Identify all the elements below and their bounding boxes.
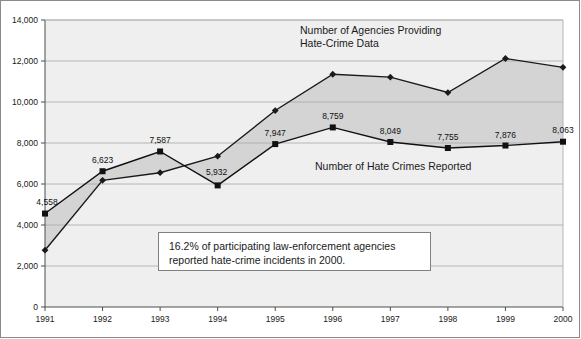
y-tick-label: 10,000 bbox=[12, 97, 38, 107]
data-point-label: 5,932 bbox=[206, 167, 228, 177]
series-marker bbox=[330, 124, 336, 130]
data-point-label: 7,587 bbox=[149, 135, 171, 145]
series-marker bbox=[445, 145, 451, 151]
hate-crimes-series-label: Number of Hate Crimes Reported bbox=[315, 160, 471, 173]
y-tick-label: 0 bbox=[33, 302, 38, 312]
chart-canvas: 02,0004,0006,0008,00010,00012,00014,000 … bbox=[0, 0, 581, 339]
y-tick-label: 4,000 bbox=[17, 220, 39, 230]
x-tick-label: 1998 bbox=[438, 314, 457, 324]
x-axis-ticks: 1991199219931994199519961997199819992000 bbox=[36, 307, 573, 324]
y-tick-label: 14,000 bbox=[12, 15, 38, 25]
x-tick-label: 1996 bbox=[323, 314, 342, 324]
series-marker bbox=[100, 168, 106, 174]
x-tick-label: 1999 bbox=[496, 314, 515, 324]
agencies-series-label: Number of Agencies Providing Hate-Crime … bbox=[300, 24, 441, 50]
y-tick-label: 2,000 bbox=[17, 261, 39, 271]
data-point-label: 8,759 bbox=[322, 111, 344, 121]
x-tick-label: 1997 bbox=[381, 314, 400, 324]
agencies-series-label-line2: Hate-Crime Data bbox=[300, 37, 441, 50]
hate-crime-line-chart: 02,0004,0006,0008,00010,00012,00014,000 … bbox=[0, 0, 581, 339]
data-point-label: 8,063 bbox=[552, 125, 574, 135]
x-tick-label: 1995 bbox=[266, 314, 285, 324]
y-tick-label: 6,000 bbox=[17, 179, 39, 189]
series-marker bbox=[42, 211, 48, 217]
x-tick-label: 1994 bbox=[208, 314, 227, 324]
data-point-label: 7,876 bbox=[495, 130, 517, 140]
x-tick-label: 1992 bbox=[93, 314, 112, 324]
series-marker bbox=[387, 139, 393, 145]
series-marker bbox=[272, 141, 278, 147]
note-box-line2: reported hate-crime incidents in 2000. bbox=[169, 253, 345, 267]
series-marker bbox=[157, 148, 163, 154]
y-tick-label: 8,000 bbox=[17, 138, 39, 148]
agencies-series-label-line1: Number of Agencies Providing bbox=[300, 24, 441, 37]
series-marker bbox=[560, 139, 566, 145]
note-box: 16.2% of participating law-enforcement a… bbox=[158, 232, 431, 271]
series-marker bbox=[215, 182, 221, 188]
data-point-label: 6,623 bbox=[92, 155, 114, 165]
note-box-line1: 16.2% of participating law-enforcement a… bbox=[169, 239, 395, 253]
x-tick-label: 1991 bbox=[36, 314, 55, 324]
series-marker bbox=[502, 143, 508, 149]
data-point-label: 7,947 bbox=[265, 128, 287, 138]
data-point-label: 7,755 bbox=[437, 132, 459, 142]
y-tick-label: 12,000 bbox=[12, 56, 38, 66]
y-axis-ticks: 02,0004,0006,0008,00010,00012,00014,000 bbox=[12, 15, 45, 312]
hate-crimes-series-label-line1: Number of Hate Crimes Reported bbox=[315, 160, 471, 173]
data-point-label: 4,558 bbox=[36, 197, 58, 207]
x-tick-label: 2000 bbox=[554, 314, 573, 324]
data-point-label: 8,049 bbox=[380, 126, 402, 136]
x-tick-label: 1993 bbox=[151, 314, 170, 324]
